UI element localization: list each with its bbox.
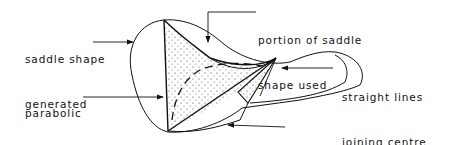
label-line: portion of saddle (258, 33, 362, 48)
label-parabolic-directrix: parabolic directrix (25, 76, 82, 145)
label-line: saddle shape (25, 52, 105, 67)
label-parabolic-generator: parabolic generator (286, 119, 407, 145)
label-line: straight lines (342, 90, 440, 105)
label-line: parabolic (25, 106, 82, 121)
saddle-diagram: saddle shape generated parabolic directr… (0, 0, 467, 145)
